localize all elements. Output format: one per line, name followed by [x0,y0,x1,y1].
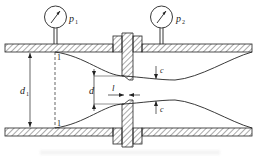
orifice-plate [122,33,133,147]
pipe-diameter-dimension: d 1 [20,53,32,127]
pressure-gauge-1: p 1 [45,6,79,44]
svg-text:1: 1 [75,19,78,25]
svg-text:l: l [112,83,115,93]
vena-contracta-top: c [154,66,164,79]
figure-caption-faint [40,150,220,155]
pressure-gauge-2: p 2 [151,6,186,44]
svg-text:c: c [160,105,164,114]
svg-text:2: 2 [182,19,185,25]
flow-streamlines [55,52,252,128]
svg-text:c: c [160,66,164,75]
svg-text:1: 1 [26,91,29,97]
orifice-meter-diagram: 1 1 d 1 d l c c [0,0,262,159]
section-label-bottom: 1 [57,119,61,128]
svg-text:p: p [175,13,181,24]
section-label-top: 1 [57,53,61,62]
svg-text:p: p [68,13,74,24]
plate-thickness-dimension: l [108,83,140,97]
vena-contracta-bottom: c [154,101,164,114]
